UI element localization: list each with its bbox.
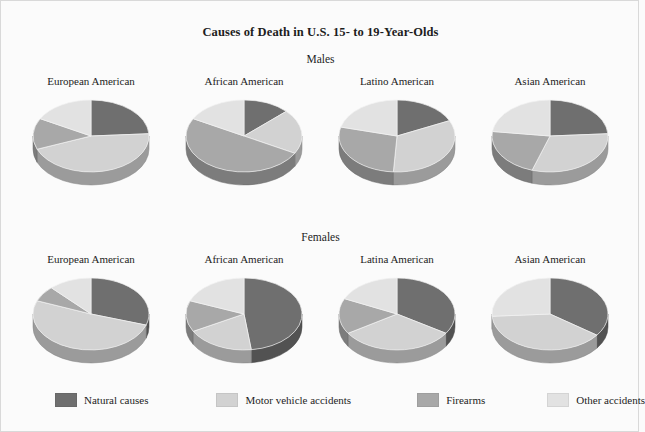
pie-chart: Natural causesMotor vehicle accidentsFir…: [24, 92, 158, 196]
pie-panel-females-asian-american: Asian American Natural causesMotor vehic…: [476, 253, 624, 374]
pie-svg: Natural causesMotor vehicle accidentsFir…: [483, 92, 617, 196]
pie-chart: Natural causesMotor vehicle accidentsFir…: [483, 92, 617, 196]
legend-item-natural-causes: Natural causes: [55, 393, 148, 407]
pie-svg: Natural causesMotor vehicle accidentsFir…: [330, 270, 464, 374]
pie-panel-label: Asian American: [514, 253, 585, 266]
legend-item-firearms: Firearms: [417, 393, 485, 407]
legend-label: Motor vehicle accidents: [245, 394, 351, 406]
pie-panel-males-latino-american: Latino American Natural causesMotor vehi…: [323, 75, 471, 196]
pie-panel-label: Asian American: [514, 75, 585, 88]
legend-swatch-icon: [417, 393, 439, 407]
pie-panel-females-european-american: European American Natural causesMotor ve…: [17, 253, 165, 374]
pie-panel-label: European American: [47, 253, 135, 266]
pie-slice: Other accidents: [492, 100, 550, 136]
pie-slice: Natural causes: [91, 100, 149, 136]
pie-row-females: European American Natural causesMotor ve…: [17, 253, 624, 374]
pie-panel-label: African American: [204, 75, 283, 88]
pie-panel-label: Latina American: [360, 253, 434, 266]
pie-panel-males-asian-american: Asian American Natural causesMotor vehic…: [476, 75, 624, 196]
pie-svg: Natural causesMotor vehicle accidentsFir…: [24, 92, 158, 196]
legend-swatch-icon: [55, 393, 77, 407]
pie-panel-label: Latino American: [360, 75, 434, 88]
pie-chart: Natural causesMotor vehicle accidentsFir…: [177, 270, 311, 374]
legend-swatch-icon: [216, 393, 238, 407]
legend-item-other-accidents: Other accidents: [547, 393, 645, 407]
pie-chart: Natural causesMotor vehicle accidentsFir…: [330, 270, 464, 374]
pie-slice: Natural causes: [550, 100, 608, 136]
section-label-females: Females: [1, 231, 640, 243]
legend-label: Natural causes: [84, 394, 148, 406]
legend-swatch-icon: [547, 393, 569, 407]
pie-slice: Other accidents: [492, 278, 550, 316]
pie-chart: Natural causesMotor vehicle accidentsOth…: [483, 270, 617, 374]
page-title: Causes of Death in U.S. 15- to 19-Year-O…: [1, 25, 640, 40]
pie-row-males: European American Natural causesMotor ve…: [17, 75, 624, 196]
section-label-males: Males: [1, 53, 640, 65]
pie-svg: Natural causesMotor vehicle accidentsFir…: [177, 270, 311, 374]
pie-chart: Natural causesMotor vehicle accidentsFir…: [177, 92, 311, 196]
legend-item-motor-vehicle-accidents: Motor vehicle accidents: [216, 393, 351, 407]
legend-label: Firearms: [446, 394, 485, 406]
legend-label: Other accidents: [576, 394, 645, 406]
pie-chart: Natural causesMotor vehicle accidentsFir…: [330, 92, 464, 196]
pie-svg: Natural causesMotor vehicle accidentsFir…: [330, 92, 464, 196]
pie-chart: Natural causesMotor vehicle accidentsFir…: [24, 270, 158, 374]
pie-svg: Natural causesMotor vehicle accidentsFir…: [24, 270, 158, 374]
pie-panel-label: European American: [47, 75, 135, 88]
pie-panel-females-latina-american: Latina American Natural causesMotor vehi…: [323, 253, 471, 374]
pie-panel-females-african-american: African American Natural causesMotor veh…: [170, 253, 318, 374]
pie-panel-label: African American: [204, 253, 283, 266]
pie-panel-males-european-american: European American Natural causesMotor ve…: [17, 75, 165, 196]
legend: Natural causes Motor vehicle accidents F…: [17, 393, 624, 407]
pie-svg: Natural causesMotor vehicle accidentsFir…: [177, 92, 311, 196]
pie-panel-males-african-american: African American Natural causesMotor veh…: [170, 75, 318, 196]
pie-svg: Natural causesMotor vehicle accidentsOth…: [483, 270, 617, 374]
